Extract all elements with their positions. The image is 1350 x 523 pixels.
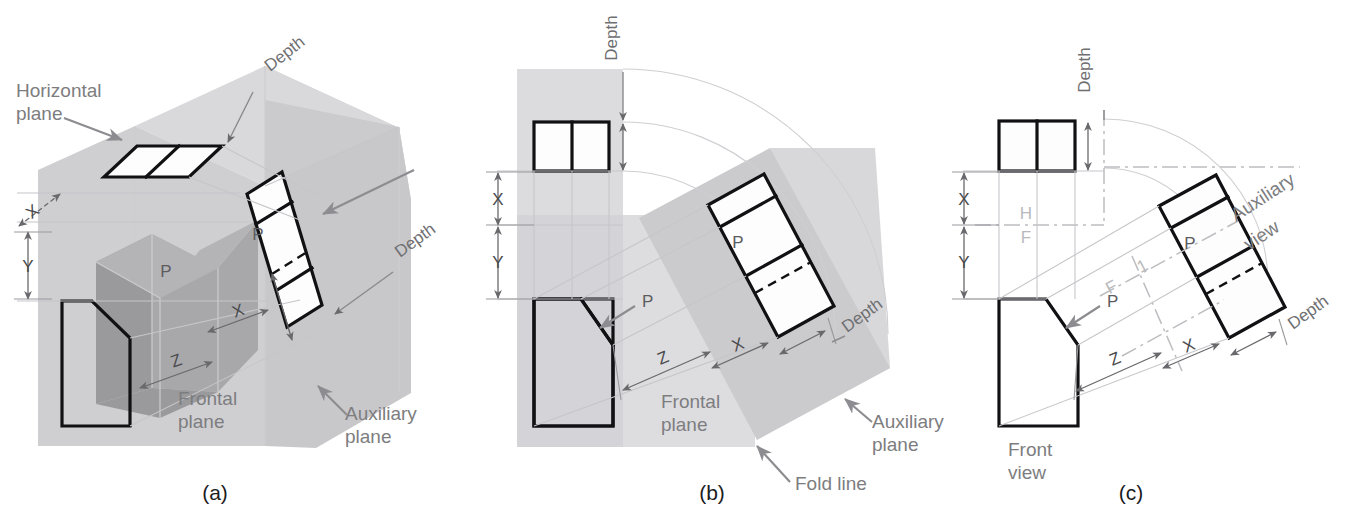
auxiliary-view-label-line2: view [1240,216,1284,254]
auxiliary-plane-leader [845,399,872,422]
fold-line-leader [757,446,790,482]
panel-c-surface-p-aux: P [1184,234,1195,253]
fold-label-1: 1 [1134,256,1151,277]
panel-b-label-fold-line: Fold line [757,446,867,494]
auxiliary-plane-label-line1: Auxiliary [872,411,944,432]
depth-right-label: Depth [1284,291,1332,333]
panel-a-surface-p-aux: P [252,225,263,244]
fold-label-f: F [1021,228,1031,247]
surface-p-front-label: P [642,292,653,311]
horizontal-plane-leader [64,118,122,140]
frontal-plane-label-line1: Frontal [661,391,720,412]
depth-dim-aux-line [1231,332,1276,355]
depth-dim-aux-ext [1279,319,1287,345]
panel-c-depth-dim-top: Depth [1075,47,1104,170]
fold-line-f-1-perp [1132,256,1182,371]
horizontal-plane-label-line1: Horizontal [16,80,102,101]
dim-x-lower-label: X [1180,335,1198,357]
fold-label-h: H [1020,204,1032,223]
panel-c-label-front-view: Front view [1008,439,1053,483]
panel-b-surface-p-aux: P [732,233,743,252]
auxiliary-view-label-line1: Auxiliary [1227,168,1299,225]
panel-a-surface-p-solid: P [160,262,171,281]
panel-a: X Y X Z Depth Depth [14,32,439,504]
auxiliary-plane-label-line1: Auxiliary [345,403,417,424]
auxiliary-view-figure: X Y X Z Depth Depth [0,0,1350,523]
front-view-outline [999,299,1078,426]
front-view-label-line1: Front [1008,439,1053,460]
dim-z-label: Z [1107,348,1124,370]
caption-a: (a) [202,481,228,504]
panel-b-top-view [534,122,609,171]
panel-c: X Y Depth X Z [952,47,1332,504]
panel-c-top-view [999,121,1075,171]
depth-top-label: Depth [261,32,308,75]
depth-top-label: Depth [1075,47,1094,92]
dim-x-upper-label: X [492,190,503,209]
fold-line-f-1-aux [1122,300,1224,356]
caption-c: (c) [1119,481,1144,504]
dim-y-label: Y [958,253,969,272]
auxiliary-plane-label-line2: plane [345,426,392,447]
dim-x-upper-label: X [958,190,969,209]
surface-p-front-leader [1066,306,1100,328]
frontal-plane-label-line1: Frontal [178,388,237,409]
panel-c-dim-x-upper: X [952,172,999,225]
panel-a-label-horizontal-plane: Horizontal plane [16,80,122,140]
panel-c-front-view [999,299,1078,426]
caption-b: (b) [699,481,725,504]
frontal-plane-label-line2: plane [661,414,708,435]
frontal-plane-label-line2: plane [178,411,225,432]
front-view-label-line2: view [1008,462,1046,483]
panel-c-dim-y: Y [952,227,999,299]
panel-b: X Y X Z Depth [486,15,944,504]
panel-c-dim-x-lower: X [1163,335,1219,368]
auxiliary-plane-label-line2: plane [872,434,919,455]
panel-b-label-auxiliary-plane: Auxiliary plane [845,399,944,455]
depth-top-label: Depth [602,15,621,60]
fold-line-label: Fold line [795,473,867,494]
dim-y-label: Y [492,253,503,272]
dim-y-label: Y [22,257,33,276]
horizontal-plane-label-line2: plane [16,103,63,124]
projection-line-aux [1078,277,1197,345]
